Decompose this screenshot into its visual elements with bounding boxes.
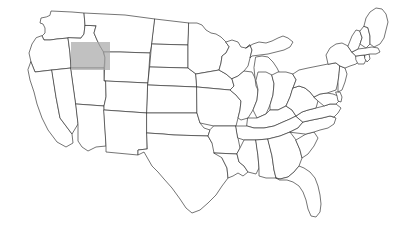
state-connecticut[interactable]: [356, 55, 366, 64]
state-north-dakota[interactable]: [152, 19, 189, 45]
region-highlight-rectangle: [71, 42, 110, 70]
state-kansas[interactable]: [147, 85, 197, 113]
state-wyoming[interactable]: [104, 52, 150, 83]
state-utah[interactable]: [71, 68, 106, 106]
state-south-dakota[interactable]: [150, 44, 188, 68]
state-outlines: [28, 8, 388, 217]
state-arizona[interactable]: [76, 104, 106, 151]
state-new-jersey[interactable]: [338, 66, 347, 92]
state-washington[interactable]: [40, 11, 85, 40]
state-nebraska[interactable]: [148, 67, 197, 87]
state-oregon[interactable]: [29, 36, 71, 72]
us-map-figure: [0, 0, 394, 240]
us-outline-map: [0, 0, 394, 240]
state-new-mexico[interactable]: [104, 110, 147, 155]
state-colorado[interactable]: [104, 81, 148, 113]
